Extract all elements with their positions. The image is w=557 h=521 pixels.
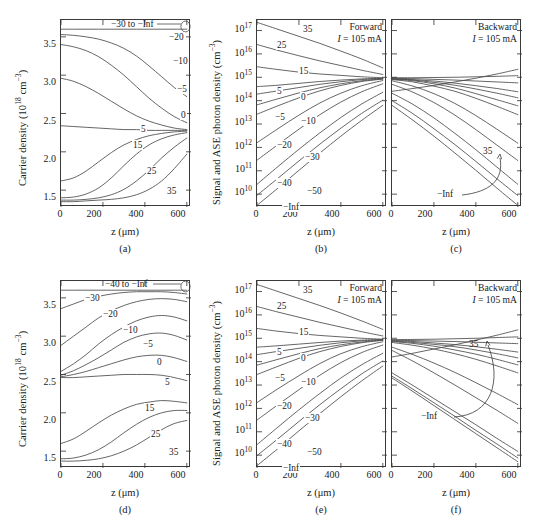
panel-b: Signal and ASE photon density (cm−3) 101…: [200, 0, 365, 260]
curve-label-5: 5: [276, 347, 283, 357]
panel-d-xtick-3: 600: [166, 469, 190, 480]
curve-label-5: 5: [164, 377, 171, 387]
panel-d-tag: (d): [95, 504, 155, 515]
curve-label-5: 5: [276, 86, 283, 96]
panel-c-tag: (c): [426, 243, 486, 254]
panel-d-x-axis-label: z (μm): [85, 487, 165, 498]
curve-label-15: 15: [144, 403, 155, 413]
panel-a-xtick-3: 600: [166, 208, 190, 219]
curve-label-10: −10: [122, 325, 139, 335]
panel-b-ytick-7: 1010: [218, 184, 252, 197]
curve-label-0: 0: [180, 110, 187, 120]
panel-b-xtick-2: 400: [320, 208, 344, 219]
panel-d-ytick-2: 2.5: [28, 376, 56, 387]
panel-c-label-inf: −Inf: [437, 189, 453, 199]
panel-f-plot-area: [391, 280, 521, 467]
panel-d-ytick-1: 3.0: [28, 337, 56, 348]
panel-f-xtick-0: 0: [381, 469, 401, 480]
panel-d: Carrier density (1018 cm−3) 3.5 3.0 2.5 …: [0, 261, 200, 521]
curve-label-5: −5: [274, 112, 286, 122]
figure-canvas: Carrier density (1018 cm−3) 3.5 3.0 2.5 …: [0, 0, 557, 521]
panel-b-ytick-1: 1016: [218, 45, 252, 58]
curve-label-30: −30: [84, 293, 101, 303]
curve-label-10: −10: [300, 116, 317, 126]
panel-e-ytick-7: 1010: [218, 445, 252, 458]
curve-40: [257, 92, 383, 184]
panel-b-ytick-6: 1011: [218, 161, 252, 174]
curve-label-20: −20: [102, 309, 119, 319]
curve-label-0: 0: [300, 92, 307, 102]
panel-a-plot-area: [60, 19, 190, 206]
panel-c-x-axis-label: z (μm): [416, 226, 496, 237]
panel-c-curves: [392, 20, 522, 207]
curve-20: [61, 35, 187, 97]
panel-a-group-label: −30 to −Inf: [111, 19, 154, 29]
panel-c-annotation: Backward I = 105 mA: [427, 21, 517, 44]
panel-f-x-axis-label: z (μm): [416, 487, 496, 498]
panel-a-ytick-1: 3.0: [28, 76, 56, 87]
panel-a-xtick-1: 200: [82, 208, 106, 219]
panel-f-label-inf: −Inf: [421, 411, 437, 421]
curve-label-20: −20: [276, 140, 293, 150]
curve-label-35: 35: [302, 285, 313, 295]
curve-label-25: 25: [150, 429, 161, 439]
panel-b-ytick-0: 1017: [218, 21, 252, 34]
callout-arrowhead: [497, 154, 501, 159]
panel-c-direction: Backward: [427, 21, 517, 33]
panel-a-curves: [61, 20, 191, 207]
curve-label-15: 15: [298, 327, 309, 337]
panel-d-ytick-3: 2.0: [28, 414, 56, 425]
panel-a-ytick-0: 3.5: [28, 38, 56, 49]
panel-b-xtick-0: 0: [246, 208, 266, 219]
panel-a: Carrier density (1018 cm−3) 3.5 3.0 2.5 …: [0, 0, 200, 260]
panel-e-ytick-4: 1013: [218, 375, 252, 388]
panel-b-x-axis-label: z (μm): [281, 226, 361, 237]
panel-e-ytick-3: 1014: [218, 352, 252, 365]
panel-f-label-35: 35: [469, 339, 478, 349]
curve-15: [257, 67, 383, 78]
panel-e-ytick-0: 1017: [218, 282, 252, 295]
panel-d-group-label: −40 to −Inf: [105, 279, 148, 289]
panel-c-xtick-1: 200: [413, 208, 437, 219]
curve-label-25: 25: [146, 166, 157, 176]
curve-15: [61, 401, 187, 444]
curve-label-30: −30: [304, 413, 321, 423]
curve-30: [61, 292, 187, 309]
panel-e-ytick-2: 1015: [218, 329, 252, 342]
panel-d-xtick-2: 400: [124, 469, 148, 480]
curve-label-5: −5: [176, 84, 188, 94]
curve-label-50: −50: [306, 447, 323, 457]
panel-f-current: I = 105 mA: [427, 294, 517, 306]
callout-arrow: [454, 345, 494, 417]
curve-Inf: [392, 378, 518, 462]
panel-b-ytick-4: 1013: [218, 114, 252, 127]
panel-a-x-axis-label: z (μm): [85, 226, 165, 237]
panel-f-direction: Backward: [427, 282, 517, 294]
curve-label-5: −5: [142, 339, 154, 349]
panel-f-annotation: Backward I = 105 mA: [427, 282, 517, 305]
curve-20: [61, 299, 187, 346]
panel-d-ytick-0: 3.5: [28, 299, 56, 310]
panel-d-xtick-0: 0: [50, 469, 70, 480]
curve-label-Inf: −Inf: [282, 202, 300, 212]
panel-e-x-axis-label: z (μm): [281, 487, 361, 498]
curve-label-50: −50: [306, 186, 323, 196]
panel-a-ytick-2: 2.5: [28, 115, 56, 126]
panel-f-xtick-1: 200: [413, 469, 437, 480]
curve-label-20: −20: [168, 32, 185, 42]
panel-d-curves: [61, 281, 191, 468]
panel-c-xtick-2: 400: [455, 208, 479, 219]
group-highlight-ellipse: [181, 21, 190, 32]
panel-a-ytick-3: 2.0: [28, 153, 56, 164]
curve-10: [61, 315, 187, 371]
curve-5: [61, 131, 187, 181]
curve-label-10: −10: [172, 56, 189, 66]
panel-b-ytick-5: 1012: [218, 138, 252, 151]
curve-label-30: −30: [304, 152, 321, 162]
panel-f-xtick-3: 600: [497, 469, 521, 480]
curve-25: [392, 337, 518, 340]
curve-15: [257, 328, 383, 339]
panel-a-y-axis-label: Carrier density (1018 cm−3): [14, 70, 28, 186]
curve-label-35: 35: [168, 447, 179, 457]
panel-e-ytick-1: 1016: [218, 306, 252, 319]
